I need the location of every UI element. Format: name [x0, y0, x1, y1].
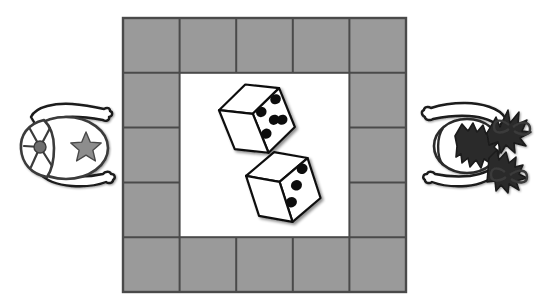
player-left[interactable]	[21, 104, 115, 186]
player-left-cap-button	[34, 141, 46, 153]
illustration-canvas	[0, 0, 544, 302]
scene-svg	[0, 0, 544, 302]
player-right[interactable]	[422, 103, 531, 193]
player-right-pigtail-lower	[487, 150, 527, 193]
game-board[interactable]	[123, 18, 406, 292]
